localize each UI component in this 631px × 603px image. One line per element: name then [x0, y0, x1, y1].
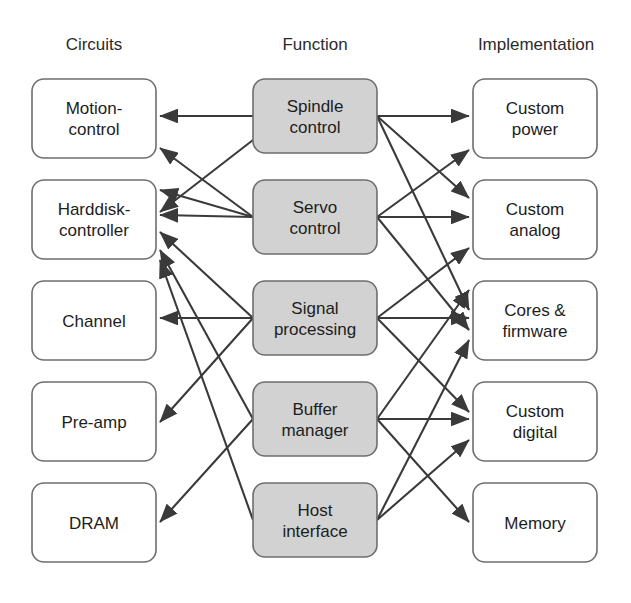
column-headers: CircuitsFunctionImplementation: [66, 35, 594, 54]
node-box-spindle-control[interactable]: [253, 79, 377, 153]
edge-servo-to-harddisk-controller-a: [160, 190, 253, 217]
node-label-custom-digital: Custom: [506, 402, 565, 421]
node-box-servo-control[interactable]: [253, 180, 377, 254]
edge-buffer-to-dram: [160, 419, 253, 522]
node-servo-control[interactable]: Servocontrol: [253, 180, 377, 254]
node-box-custom-digital[interactable]: [473, 382, 597, 461]
node-label-pre-amp: Pre-amp: [61, 413, 126, 432]
node-label-signal-processing: processing: [274, 320, 356, 339]
node-label-signal-processing: Signal: [291, 299, 338, 318]
edge-host-to-cores-firmware: [377, 340, 469, 520]
edge-servo-to-custom-power: [377, 150, 469, 217]
node-label-servo-control: control: [289, 219, 340, 238]
edge-spindle-to-custom-analog: [377, 116, 469, 198]
node-signal-processing[interactable]: Signalprocessing: [253, 281, 377, 355]
node-custom-power[interactable]: Custompower: [473, 79, 597, 158]
node-dram[interactable]: DRAM: [32, 483, 156, 562]
node-label-custom-analog: Custom: [506, 200, 565, 219]
node-memory[interactable]: Memory: [473, 483, 597, 562]
node-box-motion-control[interactable]: [32, 79, 156, 158]
node-label-dram: DRAM: [69, 514, 119, 533]
node-label-motion-control: control: [68, 120, 119, 139]
node-spindle-control[interactable]: Spindlecontrol: [253, 79, 377, 153]
node-label-host-interface: interface: [282, 522, 347, 541]
diagram-page: CircuitsFunctionImplementation Motion-co…: [0, 0, 631, 603]
node-box-harddisk-controller[interactable]: [32, 180, 156, 259]
edge-spindle-to-cores-firmware: [377, 116, 469, 310]
edge-spindle-to-harddisk-controller: [160, 140, 253, 212]
node-label-memory: Memory: [504, 514, 566, 533]
edge-host-to-harddisk-controller: [160, 260, 253, 520]
column-header-function: Function: [282, 35, 347, 54]
node-pre-amp[interactable]: Pre-amp: [32, 382, 156, 461]
node-label-channel: Channel: [62, 312, 125, 331]
node-box-signal-processing[interactable]: [253, 281, 377, 355]
edge-servo-to-motion-control: [160, 148, 253, 217]
node-host-interface[interactable]: Hostinterface: [253, 483, 377, 557]
edge-buffer-to-cores-firmware: [377, 290, 469, 419]
node-custom-analog[interactable]: Customanalog: [473, 180, 597, 259]
edge-servo-to-cores-firmware: [377, 217, 469, 330]
node-label-harddisk-controller: Harddisk-: [58, 200, 131, 219]
node-box-cores-firmware[interactable]: [473, 281, 597, 360]
edge-buffer-to-memory: [377, 419, 469, 522]
architecture-diagram: CircuitsFunctionImplementation Motion-co…: [0, 0, 631, 603]
node-box-custom-analog[interactable]: [473, 180, 597, 259]
node-label-buffer-manager: manager: [281, 421, 348, 440]
node-custom-digital[interactable]: Customdigital: [473, 382, 597, 461]
node-cores-firmware[interactable]: Cores &firmware: [473, 281, 597, 360]
node-label-motion-control: Motion-: [66, 99, 123, 118]
node-buffer-manager[interactable]: Buffermanager: [253, 382, 377, 456]
node-label-custom-power: power: [512, 120, 559, 139]
node-label-custom-power: Custom: [506, 99, 565, 118]
node-label-host-interface: Host: [298, 501, 333, 520]
node-label-cores-firmware: Cores &: [504, 301, 566, 320]
node-label-harddisk-controller: controller: [59, 221, 129, 240]
node-label-spindle-control: control: [289, 118, 340, 137]
node-label-cores-firmware: firmware: [502, 322, 567, 341]
column-header-circuits: Circuits: [66, 35, 123, 54]
node-box-buffer-manager[interactable]: [253, 382, 377, 456]
node-label-custom-analog: analog: [509, 221, 560, 240]
edge-servo-to-harddisk-controller-b: [160, 215, 253, 217]
node-label-custom-digital: digital: [513, 423, 557, 442]
node-label-buffer-manager: Buffer: [292, 400, 337, 419]
node-channel[interactable]: Channel: [32, 281, 156, 360]
column-header-implementation: Implementation: [478, 35, 594, 54]
nodes-layer: Motion-controlHarddisk-controllerChannel…: [32, 79, 597, 562]
node-label-servo-control: Servo: [293, 198, 337, 217]
node-box-custom-power[interactable]: [473, 79, 597, 158]
node-motion-control[interactable]: Motion-control: [32, 79, 156, 158]
node-harddisk-controller[interactable]: Harddisk-controller: [32, 180, 156, 259]
node-label-spindle-control: Spindle: [287, 97, 344, 116]
node-box-host-interface[interactable]: [253, 483, 377, 557]
